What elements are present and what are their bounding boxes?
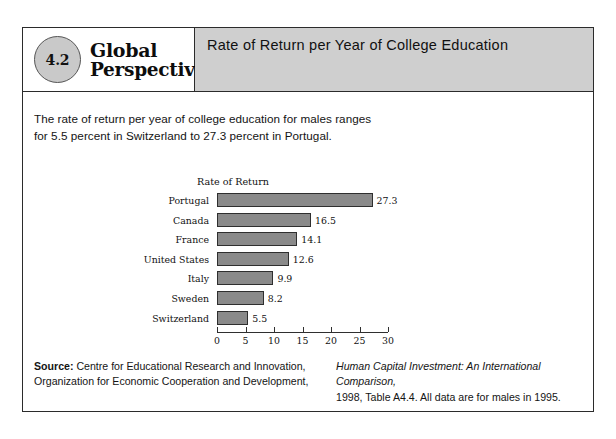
bar-row: Canada16.5 [23, 212, 595, 230]
bar-rect [217, 193, 373, 207]
bar-row: France14.1 [23, 231, 595, 249]
bar-rect [217, 213, 311, 227]
chart-plot-area: Portugal27.3Canada16.5France14.1United S… [23, 192, 595, 350]
x-axis-tick [360, 327, 361, 332]
bar-value-label: 16.5 [315, 215, 336, 226]
source-column-right: Human Capital Investment: An Internation… [336, 359, 586, 405]
x-axis-tick-label: 30 [382, 335, 394, 346]
bar-value-label: 12.6 [293, 254, 314, 265]
figure-title: Rate of Return per Year of College Educa… [207, 37, 593, 53]
bar-category-label: Switzerland [23, 313, 209, 324]
bar-row: Sweden8.2 [23, 290, 595, 308]
x-axis-tick [388, 327, 389, 332]
figure-header-title-panel: Rate of Return per Year of College Educa… [195, 28, 593, 91]
x-axis-tick [246, 327, 247, 332]
bar-rect [217, 291, 264, 305]
bar-value-label: 8.2 [268, 293, 283, 304]
bar-row: Portugal27.3 [23, 192, 595, 210]
bar-row: United States12.6 [23, 251, 595, 269]
bar-category-label: Sweden [23, 293, 209, 304]
global-perspective-figure-box: 4.2 Global Perspective Rate of Return pe… [22, 27, 594, 412]
bar-row: Italy9.9 [23, 270, 595, 288]
bar-category-label: United States [23, 254, 209, 265]
x-axis-tick [303, 327, 304, 332]
source-left-line-2: Organization for Economic Cooperation an… [34, 375, 308, 387]
x-axis-line [217, 332, 388, 333]
bar-rect [217, 271, 273, 285]
bar-rect [217, 311, 248, 325]
chart-title: Rate of Return [23, 176, 443, 187]
figure-number-badge: 4.2 [34, 36, 81, 83]
bar-chart: Rate of Return Portugal27.3Canada16.5Fra… [23, 176, 595, 351]
x-axis-tick [217, 327, 218, 332]
bar-category-label: Canada [23, 215, 209, 226]
source-publication-title: Human Capital Investment: An Internation… [336, 360, 541, 387]
brand-title-line-2: Perspective [90, 60, 206, 80]
bar-row: Switzerland5.5 [23, 310, 595, 328]
bar-value-label: 5.5 [252, 313, 267, 324]
source-right-line-2: 1998, Table A4.4. All data are for males… [336, 391, 561, 403]
x-axis-tick [274, 327, 275, 332]
figure-header-brand: 4.2 Global Perspective [23, 28, 195, 91]
bar-category-label: Portugal [23, 195, 209, 206]
brand-title: Global Perspective [90, 40, 206, 80]
x-axis-tick [331, 327, 332, 332]
figure-intro-paragraph: The rate of return per year of college e… [34, 110, 384, 144]
bar-category-label: Italy [23, 273, 209, 284]
bar-rect [217, 252, 289, 266]
source-left-line-1: Centre for Educational Research and Inno… [73, 360, 305, 372]
source-label: Source: [34, 360, 73, 372]
source-block: Source: Centre for Educational Research … [34, 359, 586, 405]
source-column-left: Source: Centre for Educational Research … [34, 359, 336, 405]
x-axis-tick-label: 20 [325, 335, 337, 346]
figure-header: 4.2 Global Perspective Rate of Return pe… [23, 28, 593, 92]
bar-value-label: 27.3 [377, 195, 398, 206]
bar-value-label: 9.9 [277, 273, 292, 284]
x-axis-tick-label: 10 [268, 335, 280, 346]
x-axis-tick-label: 15 [297, 335, 309, 346]
x-axis-tick-label: 5 [243, 335, 249, 346]
x-axis-tick-label: 0 [214, 335, 220, 346]
figure-number-label: 4.2 [46, 52, 70, 68]
x-axis-tick-label: 25 [354, 335, 366, 346]
bar-rect [217, 232, 297, 246]
bar-value-label: 14.1 [301, 234, 322, 245]
brand-title-line-1: Global [90, 40, 206, 60]
bar-category-label: France [23, 234, 209, 245]
